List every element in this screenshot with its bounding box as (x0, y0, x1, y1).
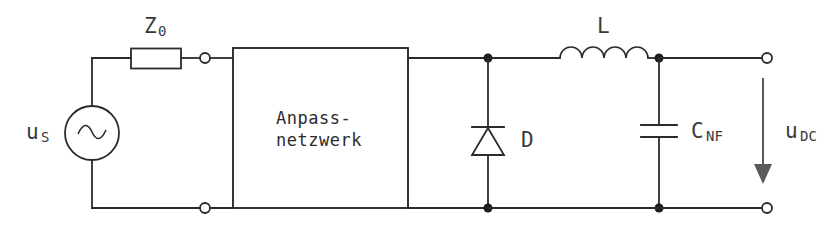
series-impedance-resistor (131, 49, 181, 69)
network-input-top-terminal (200, 53, 210, 63)
filter-inductor (560, 47, 648, 58)
matching-network-box (233, 48, 408, 208)
capacitor-label-base: C (691, 119, 704, 143)
matching-network-label-line2: netzwerk (276, 130, 362, 150)
impedance-label-base: Z (144, 14, 157, 38)
output-voltage-arrow-head (754, 164, 772, 184)
diode-anode-triangle (472, 128, 504, 155)
capacitor-label-subscript: NF (706, 128, 723, 144)
circuit-diagram: Anpass- netzwerk (0, 0, 840, 231)
source-label-subscript: S (41, 129, 49, 145)
output-voltage-label-subscript: DC (800, 128, 817, 144)
matching-network-label-line1: Anpass- (276, 108, 351, 128)
inductor-label: L (597, 14, 610, 38)
output-top-terminal (762, 53, 772, 63)
circuit-svg: Anpass- netzwerk (0, 0, 840, 231)
impedance-label-subscript: 0 (158, 23, 166, 39)
source-label-base: u (26, 120, 39, 144)
diode-label: D (521, 128, 534, 152)
network-input-bottom-terminal (200, 203, 210, 213)
output-bottom-terminal (762, 203, 772, 213)
output-voltage-label-base: u (785, 119, 798, 143)
